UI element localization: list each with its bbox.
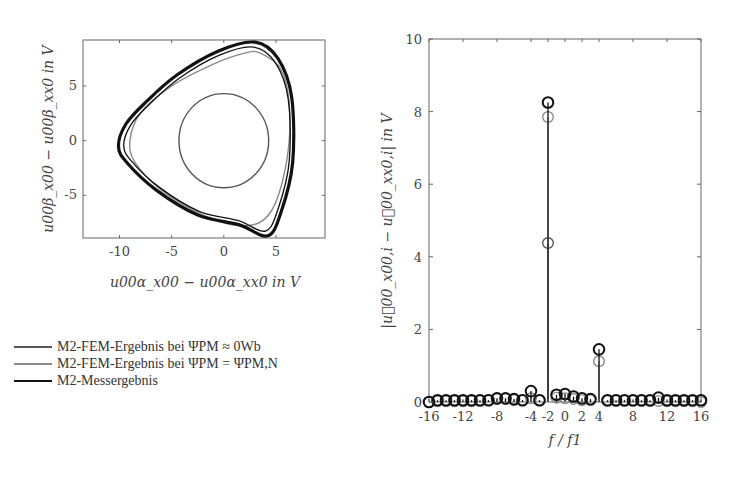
left-xtick-label: -10: [109, 244, 130, 259]
left-plot-ylabel: u00β_x00 − u00β_xx0 in V: [40, 43, 57, 232]
legend-line-swatch: [14, 346, 52, 348]
left-ytick-label: 0: [69, 133, 77, 148]
right-xtick-label: 16: [693, 409, 710, 424]
right-xtick-label: -8: [491, 409, 504, 424]
right-xtick-label: -4: [525, 409, 538, 424]
legend-label: M2-Messergebnis: [57, 373, 158, 389]
right-ytick-label: 2: [414, 322, 422, 337]
right-ytick-label: 8: [414, 105, 422, 120]
legend-label: M2-FEM-Ergebnis bei ΨPM ≈ 0Wb: [57, 339, 261, 355]
left-xtick-label: -5: [165, 244, 178, 259]
right-plot-xlabel: f / f1: [548, 432, 582, 448]
legend-line-swatch: [14, 380, 52, 382]
right-xtick-label: 4: [595, 409, 603, 424]
legend-label: M2-FEM-Ergebnis bei ΨPM = ΨPM,N: [57, 356, 278, 372]
left-xtick-label: 5: [272, 244, 280, 259]
right-ytick-label: 0: [414, 395, 422, 410]
right-xtick-label: 8: [629, 409, 637, 424]
right-ytick-label: 10: [405, 32, 422, 47]
legend-line-swatch: [14, 363, 52, 365]
left-xtick-label: 0: [220, 244, 228, 259]
legend-item: M2-FEM-Ergebnis bei ΨPM ≈ 0Wb: [14, 338, 278, 355]
right-xtick-label: 0: [561, 409, 569, 424]
left-ytick-label: -5: [64, 187, 77, 202]
right-xtick-label: 2: [578, 409, 586, 424]
spectrum-stem-plot: -16-12-8-4-2024812160246810 f / f1 |u⃗00…: [379, 32, 709, 448]
left-plot-xlabel: u00α_x00 − u00α_xx0 in V: [110, 274, 302, 291]
legend-item: M2-FEM-Ergebnis bei ΨPM = ΨPM,N: [14, 355, 278, 372]
right-xtick-label: -12: [453, 409, 474, 424]
right-plot-frame: [429, 39, 701, 402]
legend-item: M2-Messergebnis: [14, 372, 278, 389]
right-xtick-label: 12: [659, 409, 676, 424]
figure-canvas: -10-50550-5 u00α_x00 − u00α_xx0 in V u00…: [0, 0, 735, 478]
legend: M2-FEM-Ergebnis bei ΨPM ≈ 0WbM2-FEM-Erge…: [14, 338, 278, 389]
right-plot-ylabel: |u⃗00_x00,i − u⃗00_xx0,i| in V: [379, 111, 396, 328]
right-xtick-label: -2: [542, 409, 555, 424]
left-ytick-label: 5: [69, 78, 77, 93]
trajectory-plot: -10-50550-5 u00α_x00 − u00α_xx0 in V u00…: [40, 40, 325, 291]
right-xtick-label: -16: [419, 409, 440, 424]
right-ytick-label: 6: [414, 177, 422, 192]
right-ytick-label: 4: [414, 250, 422, 265]
